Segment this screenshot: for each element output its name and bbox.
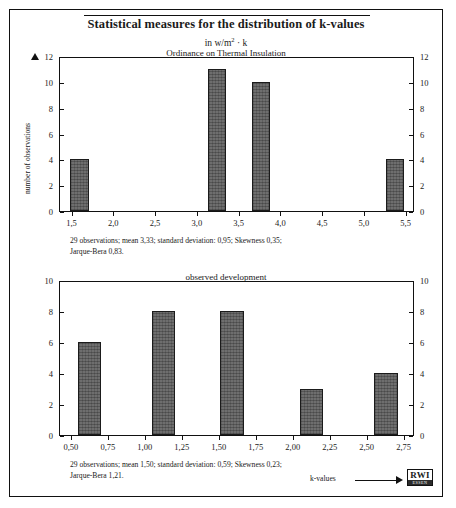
y-axis-tick-left bbox=[60, 436, 64, 437]
x-axis-arrow-line bbox=[355, 480, 397, 481]
x-axis-tick bbox=[406, 212, 407, 216]
x-axis-tick-label: 4,5 bbox=[307, 219, 337, 227]
histogram-bar bbox=[220, 311, 244, 435]
x-axis-tick bbox=[367, 436, 368, 440]
title-divider bbox=[84, 15, 370, 16]
x-axis-tick-label: 2,25 bbox=[315, 443, 345, 451]
y-axis-tick-right bbox=[409, 436, 413, 437]
y-axis-tick-label-right: 6 bbox=[420, 131, 444, 139]
y-axis-tick-label-right: 8 bbox=[420, 308, 444, 316]
x-axis-tick-label: 5,5 bbox=[391, 219, 421, 227]
x-axis-tick bbox=[256, 436, 257, 440]
y-axis-tick-left bbox=[60, 109, 64, 110]
histogram-bar bbox=[208, 69, 226, 211]
y-axis-tick-left bbox=[60, 374, 64, 375]
figure-subtitle: in w/m2 · k bbox=[10, 36, 442, 48]
histogram-bar bbox=[70, 159, 89, 211]
figure-frame: Statistical measures for the distributio… bbox=[9, 9, 443, 497]
y-axis-tick-right bbox=[409, 57, 413, 58]
x-axis-tick bbox=[197, 212, 198, 216]
x-axis-tick bbox=[293, 436, 294, 440]
y-axis-tick-left bbox=[60, 83, 64, 84]
y-axis-tick-right bbox=[409, 135, 413, 136]
y-axis-tick-label-left: 0 bbox=[29, 432, 53, 440]
histogram-bar bbox=[152, 311, 176, 435]
x-axis-tick bbox=[322, 212, 323, 216]
y-axis-tick-label-right: 6 bbox=[420, 339, 444, 347]
y-axis-tick-label-left: 10 bbox=[29, 277, 53, 285]
y-axis-tick-label-left: 4 bbox=[29, 156, 53, 164]
logo-name: RWI bbox=[408, 470, 432, 480]
logo-city: ESSEN bbox=[408, 480, 432, 485]
x-axis-tick bbox=[239, 212, 240, 216]
x-axis-tick bbox=[404, 436, 405, 440]
y-axis-tick-left bbox=[60, 281, 64, 282]
plot-area-observed bbox=[59, 281, 414, 436]
subtitle-prefix: in w/m bbox=[205, 38, 232, 48]
x-axis-tick-label: 1,25 bbox=[167, 443, 197, 451]
figure-title: Statistical measures for the distributio… bbox=[10, 17, 442, 32]
y-axis-tick-left bbox=[60, 343, 64, 344]
y-axis-tick-label-left: 8 bbox=[29, 105, 53, 113]
y-axis-tick-right bbox=[409, 186, 413, 187]
x-axis-tick-label: 3,5 bbox=[224, 219, 254, 227]
y-axis-tick-label-right: 2 bbox=[420, 182, 444, 190]
y-axis-tick-label-right: 0 bbox=[420, 432, 444, 440]
x-axis-tick bbox=[113, 212, 114, 216]
x-axis-tick-label: 1,5 bbox=[57, 219, 87, 227]
plot-area-ordinance bbox=[59, 57, 414, 212]
y-axis-tick-label-left: 4 bbox=[29, 370, 53, 378]
histogram-bar bbox=[300, 389, 324, 436]
x-axis-tick bbox=[72, 212, 73, 216]
x-axis-label-k-values: k-values bbox=[310, 474, 336, 483]
y-axis-tick-left bbox=[60, 186, 64, 187]
x-axis-tick bbox=[108, 436, 109, 440]
x-axis-tick-label: 4,0 bbox=[265, 219, 295, 227]
x-axis-tick bbox=[280, 212, 281, 216]
y-axis-tick-label-left: 6 bbox=[29, 131, 53, 139]
y-axis-tick-right bbox=[409, 109, 413, 110]
y-axis-tick-left bbox=[60, 135, 64, 136]
y-axis-tick-label-right: 4 bbox=[420, 370, 444, 378]
subtitle-suffix: · k bbox=[235, 38, 248, 48]
x-axis-tick bbox=[219, 436, 220, 440]
y-axis-tick-right bbox=[409, 374, 413, 375]
y-axis-tick-label-right: 10 bbox=[420, 277, 444, 285]
x-axis-tick-label: 2,00 bbox=[278, 443, 308, 451]
x-axis-tick-label: 2,5 bbox=[140, 219, 170, 227]
x-axis-tick bbox=[330, 436, 331, 440]
y-axis-tick-label-left: 12 bbox=[29, 53, 53, 61]
histogram-bar bbox=[252, 82, 270, 211]
x-axis-arrow-icon bbox=[396, 476, 403, 484]
y-axis-tick-left bbox=[60, 405, 64, 406]
x-axis-tick-label: 1,50 bbox=[204, 443, 234, 451]
chart-caption-observed: 29 observations; mean 1,50; standard dev… bbox=[70, 460, 282, 481]
chart-caption-ordinance: 29 observations; mean 3,33; standard dev… bbox=[70, 236, 282, 257]
x-axis-tick bbox=[182, 436, 183, 440]
x-axis-tick-label: 1,00 bbox=[130, 443, 160, 451]
y-axis-tick-right bbox=[409, 343, 413, 344]
y-axis-tick-label-right: 2 bbox=[420, 401, 444, 409]
x-axis-tick-label: 5,0 bbox=[349, 219, 379, 227]
x-axis-tick-label: 2,50 bbox=[352, 443, 382, 451]
y-axis-tick-label-right: 8 bbox=[420, 105, 444, 113]
y-axis-tick-label-left: 0 bbox=[29, 208, 53, 216]
y-axis-tick-label-right: 0 bbox=[420, 208, 444, 216]
y-axis-tick-label-right: 12 bbox=[420, 53, 444, 61]
x-axis-tick bbox=[145, 436, 146, 440]
x-axis-tick-label: 0,75 bbox=[93, 443, 123, 451]
x-axis-tick bbox=[364, 212, 365, 216]
y-axis-tick-label-left: 10 bbox=[29, 79, 53, 87]
y-axis-tick-right bbox=[409, 405, 413, 406]
y-axis-tick-label-left: 8 bbox=[29, 308, 53, 316]
x-axis-tick-label: 2,0 bbox=[98, 219, 128, 227]
histogram-bar bbox=[78, 342, 101, 435]
x-axis-tick bbox=[71, 436, 72, 440]
y-axis-tick-right bbox=[409, 160, 413, 161]
x-axis-tick-label: 1,75 bbox=[241, 443, 271, 451]
y-axis-tick-label-right: 10 bbox=[420, 79, 444, 87]
histogram-bar bbox=[386, 159, 404, 211]
x-axis-tick-label: 0,50 bbox=[56, 443, 86, 451]
histogram-bar bbox=[374, 373, 398, 435]
y-axis-tick-label-left: 6 bbox=[29, 339, 53, 347]
